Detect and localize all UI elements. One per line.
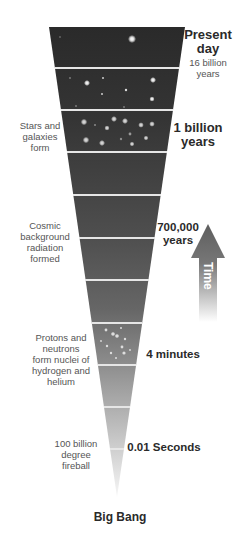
label-protons-neutrons-nuclei: Protons and neutrons form nuclei of hydr… [26,332,96,387]
label-stars-and-galaxies: Stars and galaxies form [10,120,70,153]
label-0-01-seconds: 0.01 Seconds [124,441,204,454]
label-1-billion-years: 1 billion years [162,121,234,149]
label-present-day: Present day [178,28,238,56]
time-arrow-label: Time [200,262,216,302]
label-fireball: 100 billion degree fireball [50,438,102,471]
label-700000-years: 700,000 years [150,221,206,247]
label-big-bang: Big Bang [80,510,160,524]
label-4-minutes: 4 minutes [138,348,208,361]
label-cosmic-background-radiation: Cosmic background radiation formed [12,220,78,264]
time-arrow-text: Time [201,262,215,290]
label-16-billion-years: 16 billion years [178,57,238,79]
